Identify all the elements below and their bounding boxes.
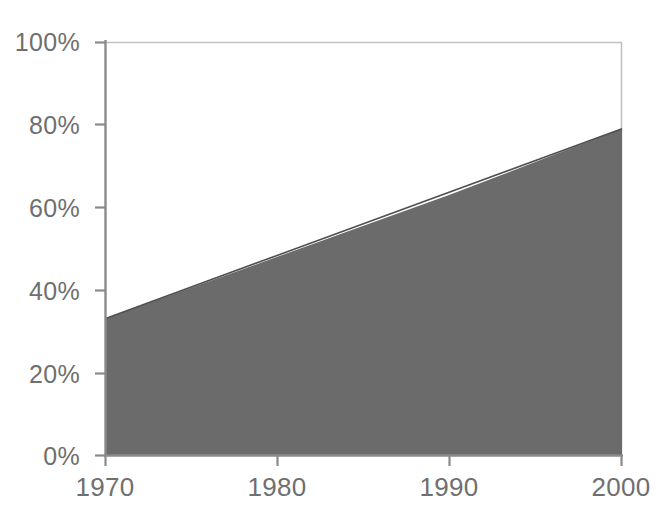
y-axis-ticks <box>95 43 105 456</box>
x-axis-tick-label-1970: 1970 <box>75 472 134 503</box>
x-axis-tick-label-1980: 1980 <box>247 472 306 503</box>
area-chart: 100% 80% 60% 40% 20% 0% 1970 1980 1990 2… <box>0 0 668 519</box>
x-axis-tick-label-1990: 1990 <box>419 472 478 503</box>
y-axis-tick-label-60: 60% <box>0 194 80 223</box>
y-axis-tick-label-100: 100% <box>0 28 80 57</box>
y-axis-tick-label-0: 0% <box>0 442 80 471</box>
chart-plot-svg <box>0 0 668 519</box>
y-axis-tick-label-20: 20% <box>0 360 80 389</box>
y-axis-tick-label-40: 40% <box>0 277 80 306</box>
x-axis-tick-label-2000: 2000 <box>591 472 650 503</box>
y-axis-tick-label-80: 80% <box>0 111 80 140</box>
